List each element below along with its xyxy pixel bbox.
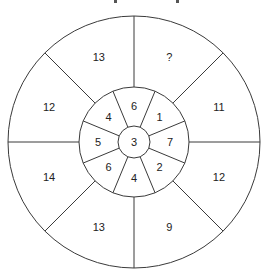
divider-line <box>83 148 119 163</box>
divider-line <box>83 121 119 136</box>
divider-line <box>113 157 128 193</box>
divider-line <box>45 181 95 231</box>
divider-line <box>173 181 223 231</box>
outer-segment-label: 9 <box>166 221 172 233</box>
outer-segment-label: 13 <box>93 51 105 63</box>
divider-line <box>113 91 128 127</box>
inner-segment-label: 2 <box>156 161 162 173</box>
center-number: 3 <box>131 136 137 148</box>
outer-segment-label: 12 <box>213 171 225 183</box>
inner-segment-label: 6 <box>105 161 111 173</box>
inner-segment-label: 4 <box>105 111 111 123</box>
divider-line <box>140 91 155 127</box>
divider-line <box>45 53 95 103</box>
outer-segment-label: 13 <box>93 221 105 233</box>
cropped-title-fragment <box>114 0 179 3</box>
inner-segment-label: 1 <box>156 111 162 123</box>
number-wheel-diagram: 3 6 1 7 2 4 6 5 4 ? 11 12 9 13 14 12 13 <box>0 0 267 276</box>
inner-segment-label: 6 <box>131 100 137 112</box>
divider-line <box>140 157 155 193</box>
outer-segment-label: 14 <box>43 171 55 183</box>
inner-segment-label: 5 <box>95 136 101 148</box>
outer-segment-label-unknown: ? <box>166 51 172 63</box>
outer-segment-label: 11 <box>213 101 224 113</box>
outer-segment-label: 12 <box>43 101 55 113</box>
divider-line <box>173 53 223 103</box>
inner-segment-label: 4 <box>131 172 137 184</box>
divider-line <box>149 148 185 163</box>
divider-line <box>149 121 185 136</box>
inner-segment-label: 7 <box>167 136 173 148</box>
